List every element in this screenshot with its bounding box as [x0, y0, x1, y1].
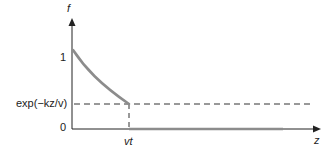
y-axis — [69, 18, 76, 129]
y-tick-zero-label: 0 — [60, 122, 66, 133]
x-axis-label: z — [314, 135, 320, 146]
y-level-label: exp(−kz/v) — [16, 98, 67, 109]
decay-diagram: f 1 exp(−kz/v) 0 vt z — [0, 0, 334, 154]
y-axis-label: f — [67, 3, 70, 14]
x-axis-arrow-icon — [313, 126, 321, 133]
decay-curve — [73, 50, 129, 104]
y-tick-one-label: 1 — [60, 52, 66, 63]
x-mark-label: vt — [124, 136, 133, 147]
y-axis-arrow-icon — [69, 18, 76, 26]
